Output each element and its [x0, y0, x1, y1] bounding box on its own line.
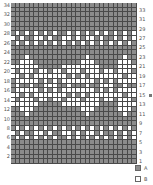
knitting-chart-grid — [11, 3, 137, 164]
row-label-right: 9 — [139, 121, 149, 126]
row-label-right: 27 — [139, 36, 149, 41]
legend-item-a: A — [135, 165, 147, 171]
row-label-right: 7 — [139, 131, 149, 136]
row-label-right: 3 — [139, 150, 149, 155]
row-label-right: 17 — [139, 83, 149, 88]
row-label-right: 23 — [139, 55, 149, 60]
row-label-left: 10 — [1, 117, 10, 122]
row-label-right: 31 — [139, 17, 149, 22]
legend-swatch-a — [135, 165, 141, 171]
center-row-marker-icon — [149, 94, 152, 97]
row-label-right: 21 — [139, 64, 149, 69]
legend-swatch-b — [135, 176, 141, 182]
row-label-left: 16 — [1, 88, 10, 93]
row-label-right: 33 — [139, 8, 149, 13]
row-label-left: 20 — [1, 69, 10, 74]
row-label-right: 25 — [139, 45, 149, 50]
row-label-right: 29 — [139, 27, 149, 32]
row-label-right: 11 — [139, 112, 149, 117]
legend-label-a: A — [144, 165, 147, 171]
row-label-left: 8 — [1, 126, 10, 131]
row-label-left: 30 — [1, 22, 10, 27]
row-label-left: 2 — [1, 154, 10, 159]
row-label-right: 1 — [139, 159, 149, 164]
legend-item-b: B — [135, 176, 147, 182]
row-label-left: 24 — [1, 50, 10, 55]
row-label-left: 6 — [1, 135, 10, 140]
row-label-left: 12 — [1, 107, 10, 112]
chart-cell — [132, 159, 137, 164]
row-label-left: 34 — [1, 3, 10, 8]
row-label-right: 15 — [139, 93, 149, 98]
row-label-right: 13 — [139, 102, 149, 107]
row-label-left: 14 — [1, 98, 10, 103]
row-label-left: 28 — [1, 31, 10, 36]
row-label-right: 19 — [139, 74, 149, 79]
row-label-left: 32 — [1, 12, 10, 17]
legend-label-b: B — [144, 176, 147, 182]
row-label-left: 26 — [1, 41, 10, 46]
row-label-right: 5 — [139, 140, 149, 145]
row-label-left: 18 — [1, 79, 10, 84]
row-label-left: 4 — [1, 145, 10, 150]
row-label-left: 22 — [1, 60, 10, 65]
